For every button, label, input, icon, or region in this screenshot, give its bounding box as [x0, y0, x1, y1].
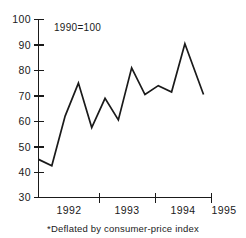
y-tick-label: 100 — [12, 13, 31, 25]
x-tick-label: 1995 — [212, 204, 237, 216]
x-tick-label: 1993 — [115, 204, 140, 216]
chart-figure: 100 90 80 70 60 50 40 30 1992 1993 1994 … — [0, 0, 246, 238]
y-tick-label: 30 — [19, 191, 31, 203]
y-tick-label: 90 — [19, 39, 31, 51]
chart-footnote: *Deflated by consumer-price index — [47, 223, 199, 234]
y-tick-label: 70 — [19, 90, 31, 102]
x-tick-label: 1992 — [57, 204, 82, 216]
data-series-line — [39, 44, 204, 166]
index-base-annotation: 1990=100 — [54, 22, 101, 33]
x-tick-label: 1994 — [171, 204, 196, 216]
y-tick-label: 80 — [19, 64, 31, 76]
y-tick-label: 60 — [19, 115, 31, 127]
y-axis-tick-labels: 100 90 80 70 60 50 40 30 — [12, 13, 31, 203]
x-axis-tick-labels: 1992 1993 1994 1995 — [57, 204, 237, 216]
y-tick-label: 50 — [19, 141, 31, 153]
line-chart: 100 90 80 70 60 50 40 30 1992 1993 1994 … — [0, 0, 246, 238]
y-tick-label: 40 — [19, 166, 31, 178]
